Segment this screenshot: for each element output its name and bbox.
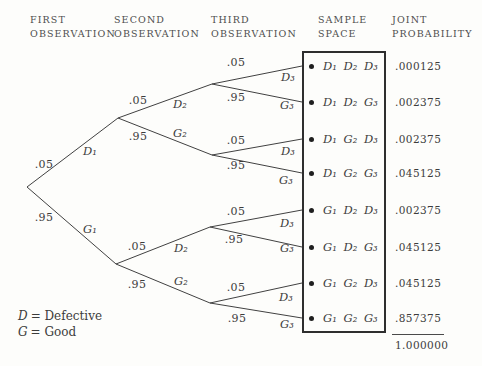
outcome-label: D₁ G₂ D₃	[323, 132, 378, 146]
header-third-observation: THIRD OBSERVATION	[211, 13, 297, 40]
prob-d3-4: .05	[227, 282, 245, 293]
prob-g3-4: .95	[228, 313, 246, 324]
header-sample-space: SAMPLE SPACE	[318, 13, 367, 40]
joint-probability-value: .045125	[395, 241, 441, 253]
total-probability: 1.000000	[395, 339, 448, 351]
header-first-observation: FIRST OBSERVATION	[30, 13, 116, 40]
prob-g1-g2: .95	[128, 279, 146, 290]
legend: D= Defective G= Good	[18, 309, 105, 340]
label-g3-2: G₃	[279, 175, 293, 187]
legend-text-good: = Good	[31, 325, 77, 339]
sample-space-row: D₁ G₂ D₃	[309, 132, 378, 146]
sample-space-row: G₁ D₂ D₃	[309, 203, 378, 217]
label-g3-4: G₃	[280, 319, 294, 331]
outcome-label: G₁ G₂ D₃	[323, 276, 378, 290]
label-g3-3: G₃	[280, 243, 294, 255]
joint-probability-value: .002375	[395, 133, 441, 145]
bullet-icon	[309, 100, 314, 105]
sample-space-row: D₁ G₂ G₃	[309, 166, 378, 180]
outcome-label: G₁ G₂ G₃	[323, 311, 378, 325]
branch-root-d1	[27, 118, 118, 187]
sample-space-row: G₁ D₂ G₃	[309, 240, 378, 254]
label-g2-bottom: G₂	[174, 276, 188, 288]
legend-text-defective: = Defective	[31, 309, 102, 323]
sample-space-row: D₁ D₂ G₃	[309, 95, 378, 109]
bullet-icon	[309, 208, 314, 213]
header-line: OBSERVATION	[114, 27, 200, 41]
header-line: PROBABILITY	[392, 27, 473, 41]
outcome-label: D₁ D₂ G₃	[323, 95, 378, 109]
label-d1: D₁	[83, 146, 97, 158]
sample-space-row: D₁ D₂ D₃	[309, 59, 378, 73]
prob-g3-3: .95	[225, 234, 243, 245]
header-line: SPACE	[318, 27, 367, 41]
header-line: JOINT	[392, 13, 473, 27]
header-line: THIRD	[211, 13, 297, 27]
label-d2-bottom: D₂	[174, 243, 188, 255]
prob-d3-1: .05	[227, 57, 245, 68]
bullet-icon	[309, 316, 314, 321]
branch-g1g2-g3	[210, 303, 302, 318]
header-joint-probability: JOINT PROBABILITY	[392, 13, 473, 40]
outcome-label: G₁ D₂ G₃	[323, 240, 378, 254]
label-d3-4: D₃	[279, 292, 293, 304]
outcome-label: D₁ D₂ D₃	[323, 59, 378, 73]
bullet-icon	[309, 171, 314, 176]
legend-defective: D= Defective	[18, 309, 105, 325]
joint-probability-value: .002375	[395, 96, 441, 108]
branch-root-g1	[27, 187, 116, 264]
bullet-icon	[309, 281, 314, 286]
header-line: SECOND	[114, 13, 200, 27]
joint-probability-value: .000125	[395, 60, 441, 72]
legend-symbol-g: G	[18, 325, 28, 339]
label-d3-3: D₃	[280, 218, 294, 230]
label-d3-1: D₃	[281, 72, 295, 84]
header-line: OBSERVATION	[211, 27, 297, 41]
sample-space-row: G₁ G₂ G₃	[309, 311, 378, 325]
prob-g1-d2: .05	[128, 241, 146, 252]
header-line: SAMPLE	[318, 13, 367, 27]
joint-probability-value: .857375	[395, 312, 441, 324]
legend-symbol-d: D	[18, 309, 28, 323]
prob-d1-d2: .05	[129, 95, 147, 106]
header-second-observation: SECOND OBSERVATION	[114, 13, 200, 40]
joint-probability-value: .045125	[395, 167, 441, 179]
bullet-icon	[309, 245, 314, 250]
sample-space-box	[302, 51, 386, 333]
joint-probability-value: .045125	[395, 277, 441, 289]
legend-good: G= Good	[18, 325, 105, 341]
header-line: FIRST	[30, 13, 116, 27]
prob-d3-2: .05	[227, 135, 245, 146]
prob-root-g1: .95	[35, 212, 53, 223]
bullet-icon	[309, 137, 314, 142]
joint-probability-value: .002375	[395, 204, 441, 216]
probability-tree-figure: FIRST OBSERVATION SECOND OBSERVATION THI…	[0, 0, 482, 366]
outcome-label: D₁ G₂ G₃	[323, 166, 378, 180]
outcome-label: G₁ D₂ D₃	[323, 203, 378, 217]
prob-g3-2: .95	[227, 160, 245, 171]
sample-space-row: G₁ G₂ D₃	[309, 276, 378, 290]
label-g3-1: G₃	[280, 100, 294, 112]
prob-g3-1: .95	[227, 92, 245, 103]
prob-d3-3: .05	[227, 206, 245, 217]
total-rule	[392, 334, 444, 335]
header-line: OBSERVATION	[30, 27, 116, 41]
label-g2-top: G₂	[173, 128, 187, 140]
label-d3-2: D₃	[281, 146, 295, 158]
bullet-icon	[309, 64, 314, 69]
prob-d1-g2: .95	[129, 131, 147, 142]
prob-root-d1: .05	[35, 159, 53, 170]
label-d2-top: D₂	[173, 99, 187, 111]
label-g1: G₁	[83, 224, 97, 236]
